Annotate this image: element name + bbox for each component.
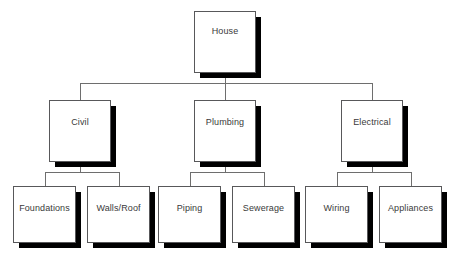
node-electrical[interactable]: Electrical (341, 100, 403, 162)
node-piping[interactable]: Piping (158, 186, 221, 243)
node-shadow (238, 243, 300, 248)
connector-drop-plumbing (225, 83, 226, 100)
node-sewerage[interactable]: Sewerage (232, 186, 295, 243)
node-shadow (19, 243, 81, 248)
connector-electrical-bus (337, 172, 411, 173)
connector-plumbing-bus (190, 172, 264, 173)
connector-drop-walls-roof (119, 172, 120, 186)
node-shadow (76, 192, 81, 248)
node-shadow (403, 106, 408, 167)
node-label: Sewerage (233, 203, 294, 214)
node-shadow (256, 17, 261, 78)
diagram-canvas: House Civil Plumbing Electrical Foundati… (0, 0, 454, 260)
connector-drop-wiring (337, 172, 338, 186)
node-label: Walls/Roof (88, 203, 149, 214)
node-civil[interactable]: Civil (49, 100, 111, 162)
node-walls-roof[interactable]: Walls/Roof (87, 186, 150, 243)
node-label: Piping (159, 203, 220, 214)
node-shadow (311, 243, 373, 248)
connector-drop-sewerage (264, 172, 265, 186)
node-shadow (221, 192, 226, 248)
connector-drop-piping (190, 172, 191, 186)
node-label: Foundations (14, 203, 75, 214)
node-appliances[interactable]: Appliances (379, 186, 442, 243)
node-wiring[interactable]: Wiring (305, 186, 368, 243)
node-shadow (368, 192, 373, 248)
node-shadow (200, 73, 261, 78)
node-label: Electrical (342, 117, 402, 128)
node-shadow (200, 162, 261, 167)
connector-drop-foundations (45, 172, 46, 186)
connector-drop-appliances (411, 172, 412, 186)
node-label: Wiring (306, 203, 367, 214)
node-shadow (347, 162, 408, 167)
connector-main-bus (80, 83, 372, 84)
node-house[interactable]: House (194, 11, 256, 73)
connector-civil-bus (45, 172, 119, 173)
node-label: Civil (50, 117, 110, 128)
node-shadow (164, 243, 226, 248)
connector-drop-electrical (372, 83, 373, 100)
connector-drop-civil (80, 83, 81, 100)
node-plumbing[interactable]: Plumbing (194, 100, 256, 162)
node-shadow (385, 243, 447, 248)
node-label: Plumbing (195, 117, 255, 128)
node-shadow (442, 192, 447, 248)
node-shadow (111, 106, 116, 167)
node-shadow (256, 106, 261, 167)
node-shadow (55, 162, 116, 167)
node-shadow (150, 192, 155, 248)
node-foundations[interactable]: Foundations (13, 186, 76, 243)
node-label: House (195, 26, 255, 37)
node-shadow (93, 243, 155, 248)
node-label: Appliances (380, 203, 441, 214)
node-shadow (295, 192, 300, 248)
